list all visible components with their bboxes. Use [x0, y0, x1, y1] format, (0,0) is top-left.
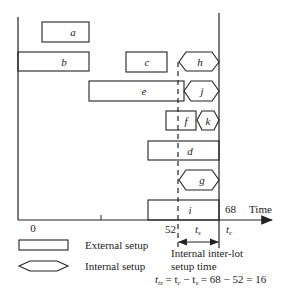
svg-text:b: b — [61, 56, 67, 68]
svg-text:k: k — [206, 115, 212, 127]
svg-text:ts: ts — [195, 223, 201, 237]
start-time-value: 52 — [165, 223, 176, 235]
svg-text:c: c — [145, 56, 150, 68]
tc-label: tc — [226, 223, 233, 237]
end-time-value: 68 — [225, 203, 237, 215]
svg-text:e: e — [142, 85, 147, 97]
svg-text:h: h — [197, 56, 203, 68]
annotation-line1: Internal inter-lot — [171, 247, 243, 259]
time-axis-label: Time — [249, 203, 272, 215]
task-a: a — [42, 22, 89, 42]
svg-text:a: a — [70, 26, 76, 38]
task-g: g — [179, 170, 219, 190]
task-c: c — [126, 52, 167, 72]
svg-text:g: g — [199, 174, 205, 186]
task-j: j — [184, 81, 219, 101]
svg-text:d: d — [187, 145, 193, 157]
ts-label: ts — [195, 223, 201, 237]
annotation-line2: setup time — [171, 260, 217, 272]
svg-text:f: f — [184, 115, 189, 127]
svg-text:i: i — [188, 204, 191, 216]
setup-time-diagram: a b c h e j f k d g i 0 68 Time 52 — [0, 0, 286, 301]
svg-text:tc: tc — [226, 223, 233, 237]
formula: tis = tc − ts = 68 − 52 = 16 — [155, 273, 267, 287]
svg-text:External setup: External setup — [85, 239, 149, 251]
legend-internal: Internal setup — [19, 260, 146, 272]
internal-setup-swatch — [19, 261, 68, 271]
task-f: f — [166, 111, 196, 130]
task-h: h — [179, 52, 219, 71]
task-d: d — [148, 141, 219, 160]
origin-label: 0 — [30, 222, 36, 234]
external-setup-swatch — [19, 240, 68, 250]
task-b: b — [18, 52, 89, 71]
task-k: k — [197, 111, 219, 130]
svg-text:Internal setup: Internal setup — [85, 260, 146, 272]
task-e: e — [89, 81, 184, 101]
svg-text:j: j — [198, 85, 203, 97]
task-i: i — [148, 200, 219, 220]
legend-external: External setup — [19, 239, 149, 251]
